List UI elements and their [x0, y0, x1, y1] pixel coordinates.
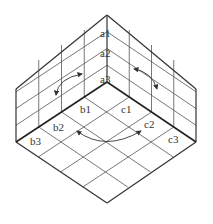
label-b1: b1	[80, 104, 91, 115]
label-c2: c2	[144, 119, 154, 130]
cube-outline-edge	[16, 142, 107, 203]
label-b2: b2	[53, 122, 64, 133]
cube-corner-diagram: a1 a2 a3 b1 b2 b3 c1 c2 c3	[0, 0, 213, 224]
cube-outline-edge	[107, 142, 196, 203]
label-b3: b3	[30, 136, 41, 147]
label-a3: a3	[100, 74, 110, 85]
label-c3: c3	[168, 134, 178, 145]
label-a2: a2	[100, 48, 110, 59]
label-c1: c1	[121, 104, 131, 115]
label-a1: a1	[100, 28, 110, 39]
